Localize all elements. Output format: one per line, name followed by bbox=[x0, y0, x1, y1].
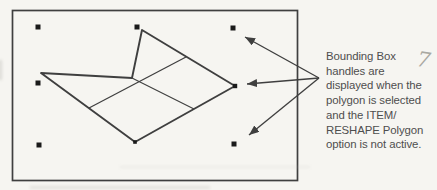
caption-line: and the ITEM/ bbox=[326, 108, 436, 123]
callout-arrow-to-bottom-handle bbox=[249, 78, 319, 135]
scanned-figure: Bounding Box handles are displayed when … bbox=[0, 0, 437, 190]
selection-handle-top-center bbox=[135, 25, 140, 30]
selection-handle-top-right bbox=[231, 26, 236, 31]
vertex-marker-bottom bbox=[133, 140, 137, 144]
scan-artifact bbox=[0, 60, 2, 80]
selection-handle-mid-left bbox=[36, 81, 41, 86]
selection-handle-bottom-right bbox=[232, 142, 237, 147]
selection-handle-top-left bbox=[36, 25, 41, 30]
vertex-marker-right bbox=[233, 84, 237, 88]
callout-arrow-to-top-handle bbox=[245, 37, 319, 78]
selection-handle-bottom-left bbox=[37, 143, 42, 148]
polygon-inner-line-1 bbox=[89, 57, 186, 108]
callout-arrow-to-right-handle bbox=[247, 78, 319, 84]
bounding-box-rect bbox=[13, 11, 298, 181]
caption-line: option is not active. bbox=[326, 137, 436, 152]
scan-artifact bbox=[120, 166, 310, 168]
polygon-outline bbox=[41, 30, 235, 142]
polygon-inner-line-2 bbox=[132, 78, 194, 109]
caption-line: displayed when the bbox=[326, 78, 436, 93]
caption-line: RESHAPE Polygon bbox=[326, 123, 436, 138]
caption-line: polygon is selected bbox=[326, 93, 436, 108]
scan-artifact bbox=[30, 186, 210, 189]
